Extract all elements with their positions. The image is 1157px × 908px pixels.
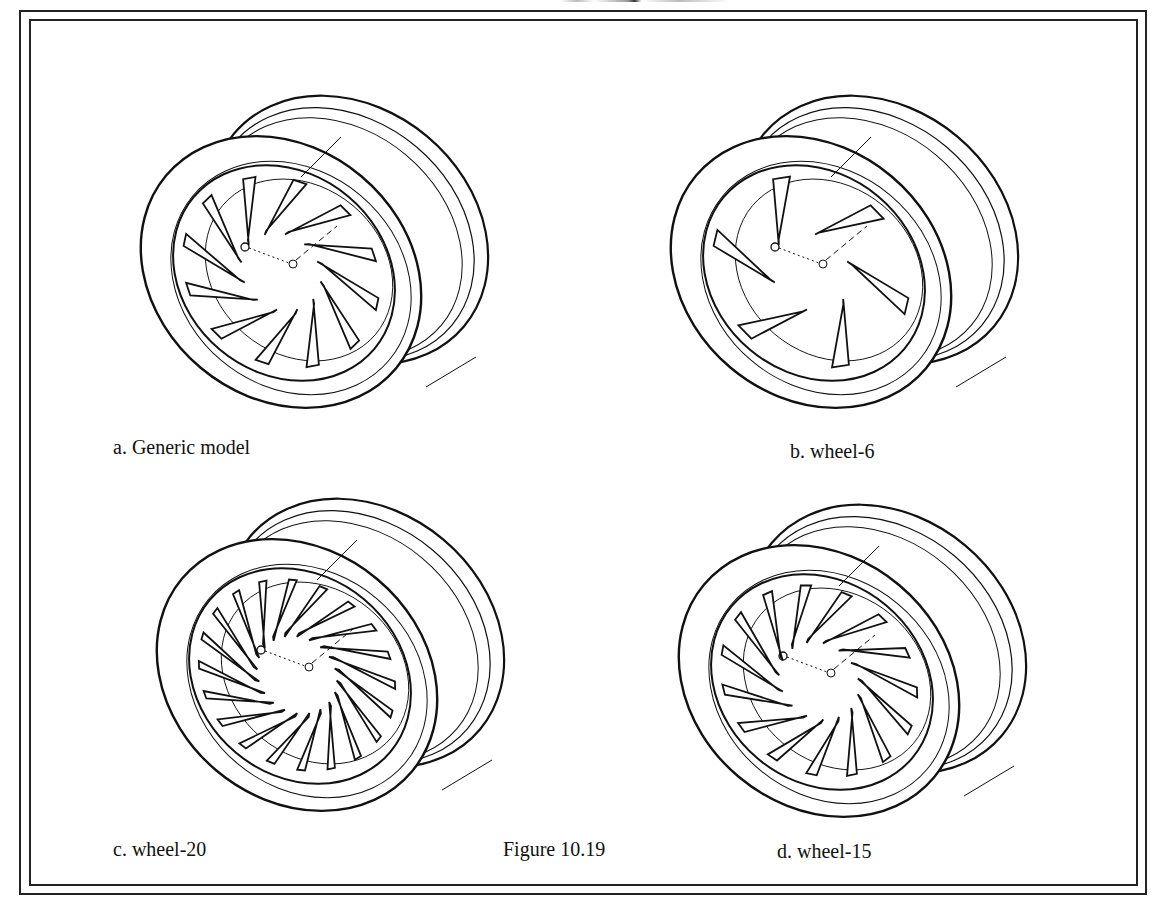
panel-label-d: d. wheel-15 (777, 840, 871, 862)
wheel-b (616, 40, 1073, 464)
panel-label-c: c. wheel-20 (113, 838, 206, 860)
wheel-a (86, 40, 543, 464)
panel-label-a: a. Generic model (113, 436, 250, 458)
panel-label-b: b. wheel-6 (790, 440, 874, 462)
wheel-c (102, 443, 559, 867)
wheel-d (624, 449, 1081, 873)
figure-caption: Figure 10.19 (503, 838, 605, 860)
